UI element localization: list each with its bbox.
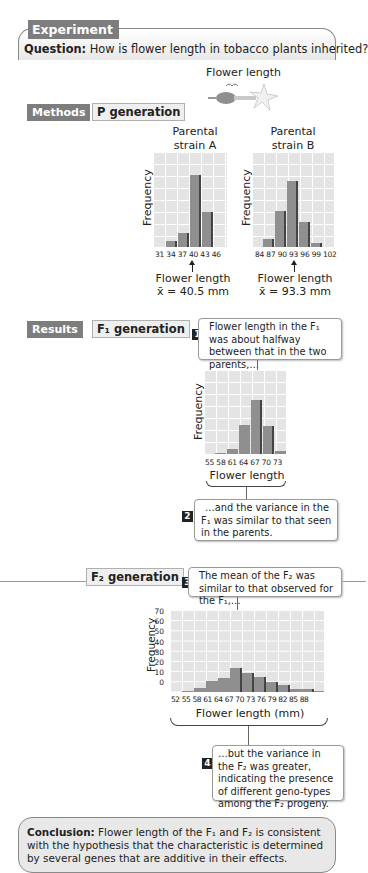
conclusion-box: Conclusion: Flower length of the F₁ and …: [18, 817, 336, 873]
experiment-tag: Experiment: [28, 20, 119, 39]
strain-b-title: Parentalstrain B: [258, 125, 328, 153]
strain-a-title: Parentalstrain A: [160, 125, 230, 153]
strain-b-ylabel: Frequency: [240, 169, 253, 226]
strain-b-ticks: 84 87 90 93 96 99 102: [255, 250, 337, 259]
question: Question: How is flower length in tobacc…: [24, 42, 368, 56]
f2-brace: [170, 718, 328, 726]
f1-chart: [204, 370, 286, 454]
callout-4: …but the variance in the F₂ was greater,…: [212, 745, 344, 801]
f2-chart: [170, 610, 324, 692]
f2-ticks: 52 55 58 61 64 67 70 73 76 79 82 85 88: [171, 695, 308, 704]
p-generation-tag: P generation: [92, 103, 185, 121]
tobacco-flower-icon: [204, 80, 284, 110]
f1-ylabel: Frequency: [192, 383, 205, 440]
strain-a-ylabel: Frequency: [141, 169, 154, 226]
strain-a-chart: [153, 152, 227, 247]
question-label: Question:: [24, 42, 86, 56]
f2-generation-tag: F₂ generation: [86, 568, 184, 586]
f2-ylabel: Frequency: [145, 618, 157, 672]
f1-generation-tag: F₁ generation: [92, 320, 190, 338]
strain-b-chart: [252, 152, 334, 247]
strain-b-xlabel: Flower lengthx̄ = 93.3 mm: [252, 272, 338, 298]
f1-ticks: 55 58 61 64 67 70 73: [205, 458, 282, 467]
flower-length-label: Flower length: [206, 66, 281, 79]
callout-1: Flower length in the F₁ was about halfwa…: [198, 318, 342, 360]
callout-3: The mean of the F₂ was similar to that o…: [188, 567, 342, 597]
results-tag: Results: [27, 321, 83, 338]
callout-2-number: 2: [182, 511, 193, 522]
question-text: How is flower length in tobacco plants i…: [86, 42, 368, 56]
strain-a-ticks: 31 34 37 40 43 46: [155, 250, 221, 259]
methods-tag: Methods: [27, 104, 90, 121]
conclusion-label: Conclusion:: [27, 826, 95, 838]
strain-a-xlabel: Flower lengthx̄ = 40.5 mm: [150, 272, 236, 298]
callout-2: …and the variance in the F₁ was similar …: [194, 499, 338, 541]
